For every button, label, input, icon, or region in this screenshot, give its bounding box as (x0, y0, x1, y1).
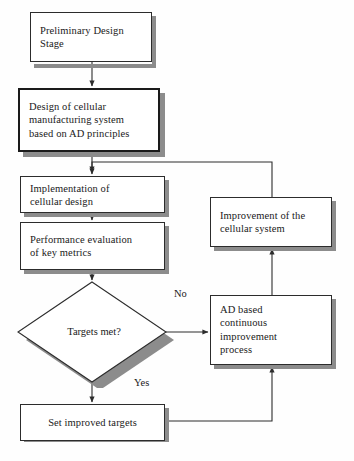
shadow-improvement (214, 247, 336, 251)
shadow-performance-r (165, 226, 169, 273)
node-label-set-improved-targets: Set improved targets (21, 416, 164, 429)
shadow-improvement-r (332, 201, 336, 250)
node-label-improvement-of-the-cellular-system: Improvement of the cellular system (220, 209, 326, 236)
shadow-performance (24, 270, 169, 274)
edge-label-no: No (174, 288, 187, 299)
shadow-design (23, 152, 165, 157)
node-preliminary-design-stage[interactable]: Preliminary Design Stage (30, 12, 152, 62)
shadow-preliminary (34, 64, 156, 68)
node-design-of-cellular-manufacturing-system[interactable]: Design of cellular manufacturing system … (18, 88, 160, 152)
shadow-set-targets-r (165, 408, 169, 441)
node-label-targets-met-decision: Targets met? (22, 326, 166, 337)
shadow-preliminary-r (152, 16, 156, 66)
node-label-design-of-cellular-manufacturing-system: Design of cellular manufacturing system … (29, 100, 153, 140)
node-improvement-of-the-cellular-system[interactable]: Improvement of the cellular system (210, 197, 332, 247)
node-set-improved-targets[interactable]: Set improved targets (20, 404, 165, 441)
node-label-performance-evaluation-of-key-metrics: Performance evaluation of key metrics (30, 233, 159, 260)
shadow-ad-process (214, 365, 336, 369)
edge-set-targets-to-ad-process (165, 367, 272, 421)
shadow-implementation-r (165, 180, 169, 216)
node-ad-based-continuous-improvement-process[interactable]: AD based continuous improvement process (210, 295, 332, 365)
edge-label-yes: Yes (134, 377, 149, 388)
node-label-implementation-of-cellular-design: Implementation of cellular design (30, 181, 159, 208)
node-label-preliminary-design-stage: Preliminary Design Stage (40, 24, 146, 51)
flowchart-canvas: Preliminary Design Stage Design of cellu… (0, 0, 354, 461)
shadow-design-r (160, 93, 165, 156)
node-label-ad-based-continuous-improvement-process: AD based continuous improvement process (220, 303, 326, 357)
shadow-implementation (24, 213, 169, 217)
shadow-ad-process-r (332, 299, 336, 368)
node-implementation-of-cellular-design[interactable]: Implementation of cellular design (20, 176, 165, 213)
node-performance-evaluation-of-key-metrics[interactable]: Performance evaluation of key metrics (20, 222, 165, 270)
